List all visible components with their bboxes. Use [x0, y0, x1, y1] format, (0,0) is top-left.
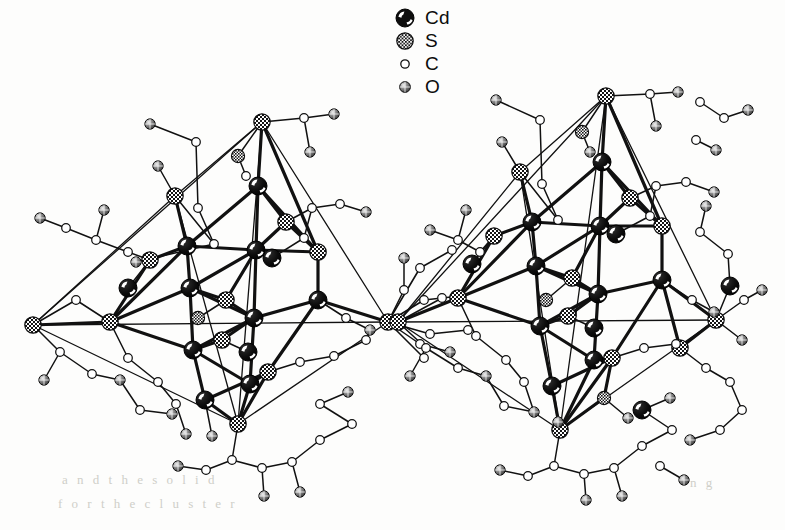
atom-o — [207, 431, 217, 441]
atom-c — [242, 172, 251, 181]
figure-canvas: Cd S — [0, 0, 785, 530]
atom-c — [738, 406, 747, 415]
atom-c — [724, 250, 733, 259]
atom-c — [400, 286, 409, 295]
legend-label-cd: Cd — [425, 8, 450, 27]
atom-c — [416, 264, 425, 273]
atom-c — [72, 296, 81, 305]
atom-c — [316, 400, 325, 409]
atom-s — [486, 228, 502, 244]
atom-c — [172, 400, 181, 409]
atom-c — [502, 356, 511, 365]
atom-c — [500, 402, 509, 411]
legend: Cd S — [392, 6, 512, 98]
atom-cd — [543, 377, 561, 395]
legend-label-s: S — [425, 31, 438, 50]
legend-item-cd: Cd — [392, 6, 512, 29]
atom-o — [711, 145, 721, 155]
atom-s — [278, 214, 294, 230]
atom-c — [472, 332, 481, 341]
atom-c — [726, 378, 735, 387]
atom-c — [426, 330, 435, 339]
atom-cd — [196, 391, 214, 409]
atom-c — [56, 348, 65, 357]
atom-c — [300, 234, 309, 243]
atom-c — [124, 248, 133, 257]
atom-c — [610, 464, 619, 473]
atom-c — [258, 464, 267, 473]
atom-cd — [527, 257, 545, 275]
atom-s — [598, 88, 614, 104]
atom-c — [210, 240, 219, 249]
c-sphere-icon — [392, 53, 418, 75]
atom-cd — [247, 241, 265, 259]
atom-o — [709, 307, 719, 317]
atom-o — [145, 119, 155, 129]
atom-cd — [309, 291, 327, 309]
atom-o — [623, 413, 633, 423]
atom-c — [476, 248, 485, 257]
atom-o — [685, 435, 695, 445]
left-cluster-atoms — [25, 109, 473, 501]
atom-c — [656, 462, 665, 471]
atom-c — [420, 354, 429, 363]
ghost-artifact-text: f o r t h e c l u s t e r — [58, 496, 238, 512]
atom-s — [390, 314, 406, 330]
atom-cd — [633, 401, 651, 419]
atom-o — [131, 257, 141, 267]
atom-s — [142, 252, 158, 268]
atom-c — [316, 436, 325, 445]
atom-cd — [721, 277, 739, 295]
atom-c — [124, 354, 133, 363]
atom-c — [640, 344, 649, 353]
atom-o — [365, 325, 375, 335]
legend-label-o: O — [425, 77, 440, 96]
atom-o — [701, 201, 711, 211]
atom-s — [102, 314, 118, 330]
legend-item-s: S — [392, 29, 512, 52]
atom-c — [296, 358, 305, 367]
atom-c — [536, 116, 545, 125]
atom-o — [737, 335, 747, 345]
atom-c — [336, 200, 345, 209]
atom-s — [575, 125, 588, 138]
atom-o — [461, 205, 471, 215]
atom-s — [254, 114, 270, 130]
ghost-artifact-text: a n d t h e s o l i d — [62, 472, 217, 488]
atom-s — [230, 416, 246, 432]
atom-c — [682, 178, 691, 187]
atom-cd — [184, 341, 202, 359]
atom-cd — [589, 285, 607, 303]
legend-label-c: C — [425, 54, 439, 73]
atom-o — [399, 253, 409, 263]
atom-c — [362, 336, 371, 345]
bond-network — [33, 92, 762, 500]
atom-s — [218, 292, 234, 308]
atom-o — [35, 213, 45, 223]
atom-cd — [585, 319, 603, 337]
atom-c — [88, 370, 97, 379]
atom-cd — [653, 271, 671, 289]
atom-o — [445, 347, 455, 357]
atom-c — [438, 294, 447, 303]
atom-cd — [523, 213, 541, 231]
s-sphere-icon — [392, 30, 418, 52]
atom-c — [228, 456, 237, 465]
atom-c — [308, 204, 317, 213]
atom-c — [740, 296, 749, 305]
atom-cd — [241, 375, 259, 393]
atom-o — [259, 491, 269, 501]
atom-o — [405, 371, 415, 381]
atom-o — [481, 371, 491, 381]
atom-o — [153, 161, 163, 171]
atom-c — [524, 472, 533, 481]
atom-c — [342, 314, 351, 323]
atom-c — [646, 90, 655, 99]
atom-cd — [263, 249, 281, 267]
atom-c — [194, 204, 203, 213]
o-sphere-icon — [392, 76, 418, 98]
atom-c — [646, 212, 655, 221]
atom-o — [743, 105, 753, 115]
atom-s — [25, 317, 41, 333]
atom-cd — [591, 217, 609, 235]
